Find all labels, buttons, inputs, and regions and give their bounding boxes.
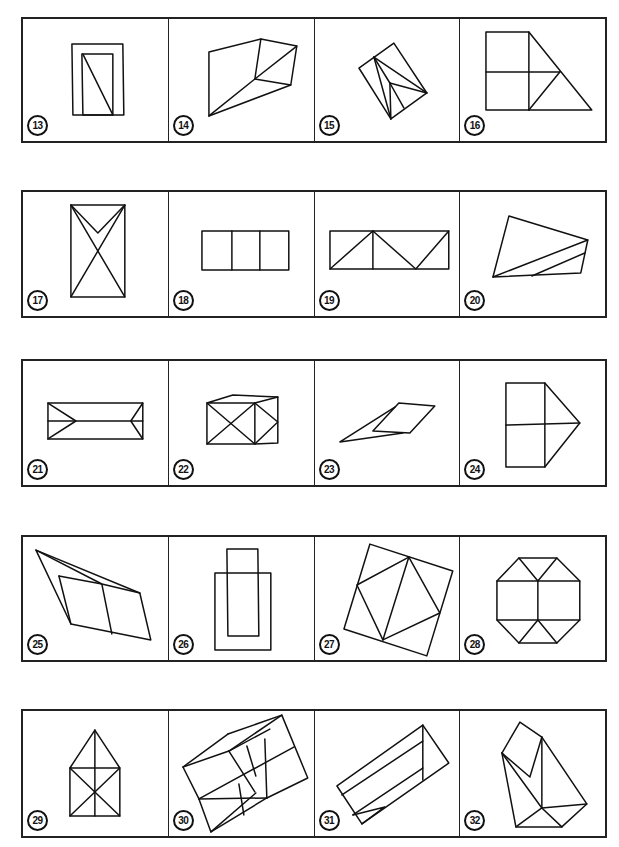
figure-number-badge: 17 bbox=[27, 290, 48, 311]
figure-number-badge: 23 bbox=[319, 459, 340, 480]
figure-row-5: 29 30 31 bbox=[21, 709, 607, 838]
figure-number-badge: 31 bbox=[319, 810, 340, 831]
figure-number-badge: 26 bbox=[173, 634, 194, 655]
figure-panel-19: 19 bbox=[315, 192, 461, 316]
figure-panel-28: 28 bbox=[460, 537, 605, 660]
figure-number-badge: 25 bbox=[27, 634, 48, 655]
figure-panel-32: 32 bbox=[460, 711, 605, 836]
figure-panel-26: 26 bbox=[169, 537, 315, 660]
figure-row-2: 17 18 19 20 bbox=[21, 190, 607, 318]
figure-panel-31: 31 bbox=[315, 711, 461, 836]
figure-number-badge: 13 bbox=[27, 115, 48, 136]
figure-row-1: 13 14 15 16 bbox=[21, 17, 607, 143]
figure-number-badge: 30 bbox=[173, 810, 194, 831]
figure-number-badge: 22 bbox=[173, 459, 194, 480]
figure-panel-18: 18 bbox=[169, 192, 315, 316]
figure-panel-29: 29 bbox=[23, 711, 169, 836]
figure-panel-17: 17 bbox=[23, 192, 169, 316]
figure-number-badge: 19 bbox=[319, 290, 340, 311]
figure-panel-30: 30 bbox=[169, 711, 315, 836]
figure-panel-25: 25 bbox=[23, 537, 169, 660]
figure-panel-14: 14 bbox=[169, 19, 315, 141]
figure-panel-27: 27 bbox=[315, 537, 461, 660]
figure-number-badge: 21 bbox=[27, 459, 48, 480]
figure-number-badge: 18 bbox=[173, 290, 194, 311]
figure-panel-23: 23 bbox=[315, 361, 461, 485]
figure-number-badge: 15 bbox=[319, 115, 340, 136]
figure-panel-16: 16 bbox=[460, 19, 605, 141]
figure-panel-21: 21 bbox=[23, 361, 169, 485]
figure-number-badge: 27 bbox=[319, 634, 340, 655]
figure-number-badge: 29 bbox=[27, 810, 48, 831]
figure-row-3: 21 22 23 24 bbox=[21, 359, 607, 487]
figure-row-4: 25 26 27 28 bbox=[21, 535, 607, 662]
figure-number-badge: 14 bbox=[173, 115, 194, 136]
figure-panel-20: 20 bbox=[460, 192, 605, 316]
figure-panel-22: 22 bbox=[169, 361, 315, 485]
figure-panel-24: 24 bbox=[460, 361, 605, 485]
figure-panel-13: 13 bbox=[23, 19, 169, 141]
figure-panel-15: 15 bbox=[315, 19, 461, 141]
